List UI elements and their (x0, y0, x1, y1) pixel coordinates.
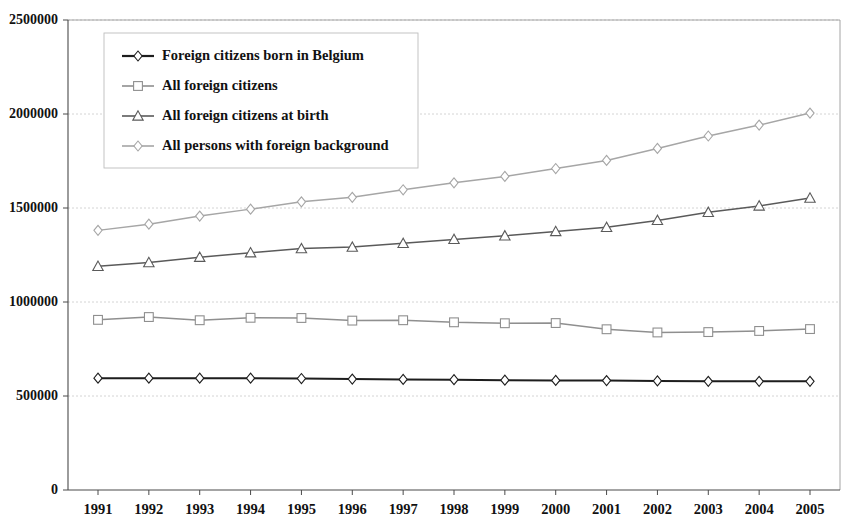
data-point-marker (399, 316, 408, 325)
legend-entry-4[interactable]: All persons with foreign background (122, 137, 389, 153)
chart-container: 05000001000000150000020000002500000 1991… (0, 0, 853, 528)
data-point-marker (653, 328, 662, 337)
x-axis-tick-label: 1991 (84, 501, 113, 517)
line-chart: 05000001000000150000020000002500000 1991… (0, 0, 853, 528)
y-axis-tick-label: 0 (51, 482, 58, 497)
x-axis-tick-label: 1996 (338, 501, 367, 517)
x-axis-tick-label: 2003 (694, 501, 723, 517)
data-point-marker (602, 325, 611, 334)
data-point-marker (500, 319, 509, 328)
data-point-marker (246, 313, 255, 322)
legend-entry-label: Foreign citizens born in Belgium (162, 47, 364, 63)
x-axis-tick-label: 2004 (745, 501, 774, 517)
data-point-marker (704, 328, 713, 337)
x-axis-labels: 1991199219931994199519961997199819992000… (84, 501, 825, 517)
data-point-marker (348, 316, 357, 325)
y-axis-tick-label: 2500000 (9, 12, 58, 27)
data-point-marker (195, 316, 204, 325)
y-axis-tick-label: 500000 (16, 388, 58, 403)
data-point-marker (94, 315, 103, 324)
data-point-marker (144, 313, 153, 322)
x-axis-tick-label: 1997 (389, 501, 418, 517)
x-axis-tick-label: 1992 (134, 501, 163, 517)
legend-entry-label: All persons with foreign background (162, 137, 389, 153)
x-axis-tick-label: 1995 (287, 501, 316, 517)
y-axis-tick-label: 1500000 (9, 200, 58, 215)
data-point-marker (755, 327, 764, 336)
legend-entry-label: All foreign citizens (162, 77, 278, 93)
data-point-marker (450, 318, 459, 327)
x-axis-tick-label: 2000 (541, 501, 570, 517)
x-axis-tick-label: 1999 (490, 501, 519, 517)
x-axis-tick-label: 2005 (796, 501, 825, 517)
legend-entry-label: All foreign citizens at birth (162, 107, 328, 123)
y-axis-tick-label: 1000000 (9, 294, 58, 309)
x-axis-tick-label: 2001 (592, 501, 621, 517)
data-point-marker (297, 314, 306, 323)
x-axis-tick-label: 1993 (185, 501, 214, 517)
x-axis-tick-label: 1994 (236, 501, 265, 517)
data-point-marker (551, 319, 560, 328)
x-axis-tick-label: 2002 (643, 501, 672, 517)
x-axis-tick-label: 1998 (440, 501, 469, 517)
y-axis-tick-label: 2000000 (9, 106, 58, 121)
data-point-marker (806, 325, 815, 334)
data-point-marker (134, 82, 143, 91)
chart-legend: Foreign citizens born in BelgiumAll fore… (104, 33, 418, 168)
